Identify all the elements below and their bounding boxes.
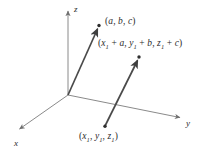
plus-1: + — [109, 38, 119, 48]
plus-3: + — [164, 38, 174, 48]
x-axis-label: x — [14, 139, 18, 148]
plus-2: + — [137, 38, 147, 48]
translated-vector — [105, 61, 138, 127]
translated-vector-head-point — [137, 55, 140, 58]
position-vector-tip-label: (a, b, c) — [105, 17, 135, 27]
translated-vector-tail-point — [103, 125, 106, 128]
paren-close: ) — [179, 38, 182, 48]
position-vector-head-point — [97, 24, 100, 27]
position-vector — [68, 29, 98, 95]
z-axis-label: z — [74, 5, 78, 14]
translated-vector-tip-label: (x1 + a, y1 + b, z1 + c) — [98, 39, 182, 50]
paren-close: ) — [115, 131, 118, 141]
translated-vector-tail-label: (x1, y1, z1) — [79, 132, 118, 143]
paren-close: ) — [132, 16, 135, 26]
x-axis — [20, 95, 69, 129]
vector-figure: z y x (a, b, c) (x1 + a, y1 + b, z1 + c)… — [0, 0, 213, 155]
y-axis — [68, 95, 180, 118]
y-axis-label: y — [186, 119, 190, 128]
